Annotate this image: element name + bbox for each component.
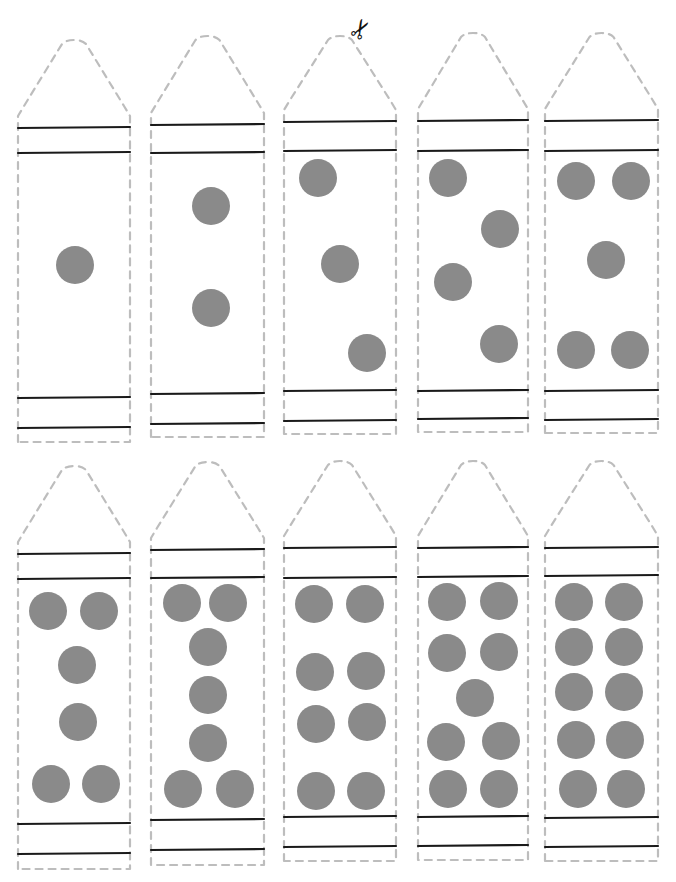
count-dot xyxy=(606,721,644,759)
count-dot xyxy=(428,634,466,672)
count-dot xyxy=(482,722,520,760)
crayon-6 xyxy=(18,466,130,869)
crayon-outline xyxy=(151,36,264,437)
count-dot xyxy=(605,673,643,711)
crayon-band-line xyxy=(18,127,130,128)
crayon-cutouts xyxy=(0,0,676,882)
crayon-band-line xyxy=(418,845,528,846)
crayon-band-line xyxy=(284,846,396,847)
crayon-band-line xyxy=(284,420,396,421)
crayon-band-line xyxy=(18,427,130,428)
crayon-band-line xyxy=(284,150,396,151)
count-dot xyxy=(192,289,230,327)
crayon-1 xyxy=(18,40,130,442)
count-dot xyxy=(29,592,67,630)
count-dot xyxy=(321,245,359,283)
count-dot xyxy=(612,162,650,200)
count-dot xyxy=(607,770,645,808)
crayon-8 xyxy=(284,461,396,861)
count-dot xyxy=(189,628,227,666)
count-dot xyxy=(480,325,518,363)
crayon-band-line xyxy=(151,549,264,550)
crayon-outline xyxy=(284,36,396,434)
count-dot xyxy=(348,334,386,372)
count-dot xyxy=(434,263,472,301)
count-dot xyxy=(297,705,335,743)
count-dot xyxy=(216,770,254,808)
crayon-band-line xyxy=(545,120,658,121)
count-dot xyxy=(295,585,333,623)
count-dot xyxy=(480,582,518,620)
count-dot xyxy=(429,159,467,197)
crayon-band-line xyxy=(284,390,396,391)
count-dot xyxy=(209,584,247,622)
crayon-band-line xyxy=(545,817,658,818)
crayon-band-line xyxy=(18,553,130,554)
crayon-outline xyxy=(18,40,130,442)
count-dot xyxy=(347,652,385,690)
count-dot xyxy=(427,723,465,761)
crayon-band-line xyxy=(18,397,130,398)
count-dot xyxy=(557,162,595,200)
count-dot xyxy=(555,673,593,711)
crayon-band-line xyxy=(151,577,264,578)
crayon-3 xyxy=(284,36,396,434)
count-dot xyxy=(559,770,597,808)
count-dot xyxy=(557,721,595,759)
count-dot xyxy=(555,583,593,621)
count-dot xyxy=(611,331,649,369)
count-dot xyxy=(164,770,202,808)
crayon-band-line xyxy=(418,120,528,121)
count-dot xyxy=(189,724,227,762)
crayon-band-line xyxy=(151,152,264,153)
count-dot xyxy=(346,585,384,623)
count-dot xyxy=(163,584,201,622)
count-dot xyxy=(428,583,466,621)
count-dot xyxy=(56,246,94,284)
crayon-band-line xyxy=(18,853,130,854)
header-text xyxy=(0,0,676,6)
crayon-band-line xyxy=(284,816,396,817)
count-dot xyxy=(480,770,518,808)
count-dot xyxy=(348,703,386,741)
crayon-5 xyxy=(545,33,658,433)
crayon-band-line xyxy=(18,823,130,824)
crayon-band-line xyxy=(545,390,658,391)
count-dot xyxy=(429,770,467,808)
crayon-band-line xyxy=(418,418,528,419)
crayon-band-line xyxy=(545,575,658,576)
crayon-outline xyxy=(545,33,658,433)
count-dot xyxy=(481,210,519,248)
crayon-2 xyxy=(151,36,264,437)
crayon-band-line xyxy=(151,819,264,820)
crayon-band-line xyxy=(18,152,130,153)
crayon-band-line xyxy=(545,547,658,548)
crayon-band-line xyxy=(418,390,528,391)
crayon-band-line xyxy=(284,121,396,122)
crayon-10 xyxy=(545,461,658,861)
crayon-band-line xyxy=(151,124,264,125)
crayon-9 xyxy=(418,461,528,860)
count-dot xyxy=(297,772,335,810)
count-dot xyxy=(82,765,120,803)
count-dot xyxy=(480,633,518,671)
crayon-band-line xyxy=(418,576,528,577)
count-dot xyxy=(557,331,595,369)
crayon-band-line xyxy=(545,150,658,151)
crayon-band-line xyxy=(418,816,528,817)
crayon-band-line xyxy=(418,150,528,151)
count-dot xyxy=(555,628,593,666)
count-dot xyxy=(587,241,625,279)
crayon-band-line xyxy=(418,547,528,548)
crayon-band-line xyxy=(151,849,264,850)
crayon-band-line xyxy=(18,578,130,579)
count-dot xyxy=(58,646,96,684)
count-dot xyxy=(605,628,643,666)
crayon-band-line xyxy=(284,547,396,548)
count-dot xyxy=(347,772,385,810)
crayon-band-line xyxy=(284,577,396,578)
count-dot xyxy=(189,676,227,714)
crayon-band-line xyxy=(545,419,658,420)
count-dot xyxy=(32,765,70,803)
count-dot xyxy=(605,583,643,621)
